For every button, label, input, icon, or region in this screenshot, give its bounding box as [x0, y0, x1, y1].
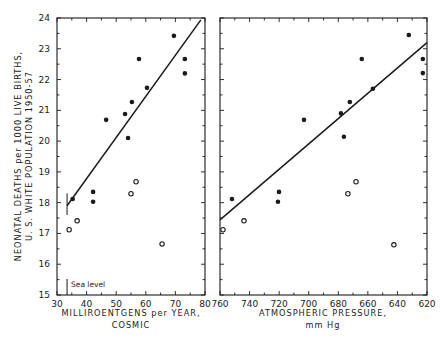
x-axis-title-pressure-line-2: mm Hg: [306, 320, 341, 330]
filled-data-point: [302, 118, 307, 123]
y-tick-label: 21: [39, 105, 50, 115]
y-tick-label: 24: [39, 13, 51, 23]
open-data-point: [221, 228, 225, 232]
y-axis-title: NEONATAL DEATHS per 1000 LIVE BIRTHS, U.…: [13, 51, 34, 261]
filled-data-point: [276, 199, 281, 204]
filled-data-point: [421, 71, 426, 76]
open-data-point: [160, 242, 164, 246]
open-data-point: [392, 243, 396, 247]
filled-data-point: [126, 136, 131, 141]
filled-data-point: [421, 57, 426, 62]
open-data-point: [75, 219, 79, 223]
filled-data-point: [277, 190, 282, 195]
filled-data-point: [342, 135, 347, 140]
y-axis-title-line-2: U. S. WHITE POPULATION 1950-57: [24, 71, 34, 241]
x-axis-title-cosmic-line-2: COSMIC: [112, 320, 151, 330]
filled-data-point: [172, 34, 177, 39]
filled-data-point: [130, 100, 135, 105]
filled-data-point: [137, 57, 142, 62]
open-data-point: [67, 228, 71, 232]
x-tick-label: 640: [389, 299, 406, 309]
y-tick-label: 16: [39, 259, 51, 269]
x-tick-label: 620: [418, 299, 435, 309]
plot-frame: [220, 18, 427, 295]
filled-data-point: [183, 71, 188, 76]
open-data-point: [242, 219, 246, 223]
regression-line: [67, 20, 201, 206]
filled-data-point: [183, 57, 188, 62]
y-tick-label: 19: [39, 167, 51, 177]
x-axis-title-cosmic-line-1: MILLIROENTGENS per YEAR,: [61, 308, 200, 318]
filled-data-point: [230, 197, 235, 202]
x-tick-label: 80: [199, 299, 211, 309]
figure: NEONATAL DEATHS per 1000 LIVE BIRTHS, U.…: [0, 0, 446, 341]
regression-line: [220, 43, 427, 220]
filled-data-point: [145, 86, 150, 91]
y-axis-title-line-1: NEONATAL DEATHS per 1000 LIVE BIRTHS,: [13, 51, 23, 261]
y-tick-label: 17: [39, 228, 50, 238]
filled-data-point: [91, 199, 96, 204]
sea-level-annotation: Sea level: [71, 280, 105, 289]
x-axis-title-pressure-line-1: ATMOSPHERIC PRESSURE,: [259, 308, 387, 318]
y-tick-label: 20: [39, 136, 51, 146]
x-tick-label: 740: [241, 299, 258, 309]
y-tick-label: 22: [39, 75, 50, 85]
filled-data-point: [123, 112, 128, 117]
open-data-point: [129, 192, 133, 196]
cosmic-radiation-panel: 15161718192021222324304050607080: [39, 13, 211, 309]
filled-data-point: [407, 33, 412, 38]
open-data-point: [354, 180, 358, 184]
open-data-point: [134, 180, 138, 184]
y-tick-label: 23: [39, 44, 50, 54]
filled-data-point: [359, 57, 364, 62]
y-tick-label: 15: [39, 290, 50, 300]
y-tick-label: 18: [39, 198, 51, 208]
open-data-point: [346, 192, 350, 196]
filled-data-point: [91, 190, 96, 195]
x-tick-label: 760: [211, 299, 228, 309]
atmospheric-pressure-panel: 760740720700680660640620: [211, 18, 435, 309]
filled-data-point: [348, 100, 353, 105]
filled-data-point: [104, 118, 109, 123]
